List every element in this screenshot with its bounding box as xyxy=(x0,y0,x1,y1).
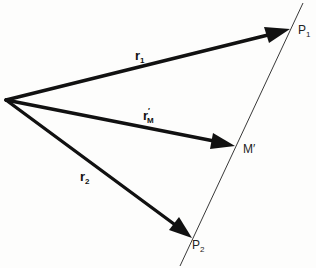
arrowhead-r2-icon xyxy=(169,217,192,238)
vector-r2 xyxy=(6,100,192,238)
label-p1: P1 xyxy=(298,23,311,39)
vector-diagram: r1 r′M r2 P1 M′ P2 xyxy=(0,0,316,268)
label-r2: r2 xyxy=(80,169,90,186)
arrowhead-rm-icon xyxy=(210,133,235,149)
vector-r1 xyxy=(6,27,290,100)
label-p2: P2 xyxy=(192,238,205,254)
label-r1: r1 xyxy=(135,48,145,65)
label-rm: r′M xyxy=(143,106,154,125)
arrowhead-r1-icon xyxy=(264,27,290,43)
label-m-prime: M′ xyxy=(243,142,256,156)
